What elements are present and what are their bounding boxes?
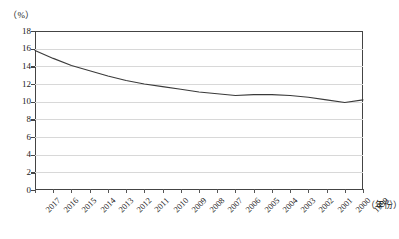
y-axis-tick-label: 12 xyxy=(5,80,31,89)
y-axis-tick-label: 18 xyxy=(5,27,31,36)
y-axis-tick-label: 2 xyxy=(5,168,31,177)
x-axis-tick-mark xyxy=(217,189,218,193)
y-axis-tick-mark xyxy=(31,137,35,138)
x-axis-tick-label: 2005 xyxy=(263,196,281,214)
x-axis-tick-label: 2015 xyxy=(80,196,98,214)
x-axis-tick-mark xyxy=(35,189,36,193)
y-axis-tick-label: 0 xyxy=(5,186,31,195)
y-axis-tick-mark xyxy=(31,172,35,173)
x-axis-tick-label: 2004 xyxy=(281,196,299,214)
x-axis-tick-mark xyxy=(181,189,182,193)
y-axis-tick-mark xyxy=(31,84,35,85)
x-axis-tick-label: 2013 xyxy=(117,196,135,214)
x-axis-tick-mark xyxy=(290,189,291,193)
x-axis-tick-mark xyxy=(108,189,109,193)
x-axis-tick-mark xyxy=(345,189,346,193)
x-axis-tick-mark xyxy=(235,189,236,193)
x-axis-tick-label: 2009 xyxy=(190,196,208,214)
y-axis-tick-label: 16 xyxy=(5,44,31,53)
x-axis-tick-label: 2007 xyxy=(226,196,244,214)
x-axis-tick-label: 2014 xyxy=(99,196,117,214)
x-axis-tick-mark xyxy=(90,189,91,193)
x-axis-tick-label: 2002 xyxy=(317,196,335,214)
x-axis-tick-label: 2017 xyxy=(44,196,62,214)
x-axis-tick-label: 2011 xyxy=(153,196,171,214)
x-axis-tick-mark xyxy=(327,189,328,193)
x-axis-tick-mark xyxy=(126,189,127,193)
x-axis-tick-label: 2006 xyxy=(244,196,262,214)
x-axis-tick-mark xyxy=(199,189,200,193)
y-axis-tick-mark xyxy=(31,66,35,67)
series-line xyxy=(35,31,363,190)
y-axis-tick-mark xyxy=(31,31,35,32)
x-axis-unit-label: （年份） xyxy=(366,198,399,211)
y-axis-tick-mark xyxy=(31,49,35,50)
x-axis-tick-mark xyxy=(363,189,364,193)
y-axis-tick-label: 6 xyxy=(5,133,31,142)
x-axis-tick-mark xyxy=(53,189,54,193)
x-axis-tick-label: 2003 xyxy=(299,196,317,214)
line-chart: （%） 024681012141618 20172016201520142013… xyxy=(0,0,399,239)
y-axis-tick-label: 14 xyxy=(5,62,31,71)
x-axis-tick-label: 2008 xyxy=(208,196,226,214)
y-axis-unit-label: （%） xyxy=(8,8,35,21)
x-axis-tick-mark xyxy=(254,189,255,193)
x-axis-tick-label: 2010 xyxy=(172,196,190,214)
x-axis-tick-label: 2012 xyxy=(135,196,153,214)
y-axis-tick-label: 8 xyxy=(5,115,31,124)
x-axis-tick-mark xyxy=(272,189,273,193)
x-axis-tick-label: 2016 xyxy=(62,196,80,214)
x-axis-tick-mark xyxy=(308,189,309,193)
y-axis-tick-label: 10 xyxy=(5,97,31,106)
x-axis-tick-label: 2001 xyxy=(336,196,354,214)
y-axis-tick-label: 4 xyxy=(5,150,31,159)
y-axis-tick-mark xyxy=(31,119,35,120)
x-axis-tick-mark xyxy=(71,189,72,193)
y-axis-tick-mark xyxy=(31,102,35,103)
x-axis-tick-mark xyxy=(163,189,164,193)
y-axis-tick-mark xyxy=(31,155,35,156)
x-axis-tick-mark xyxy=(144,189,145,193)
